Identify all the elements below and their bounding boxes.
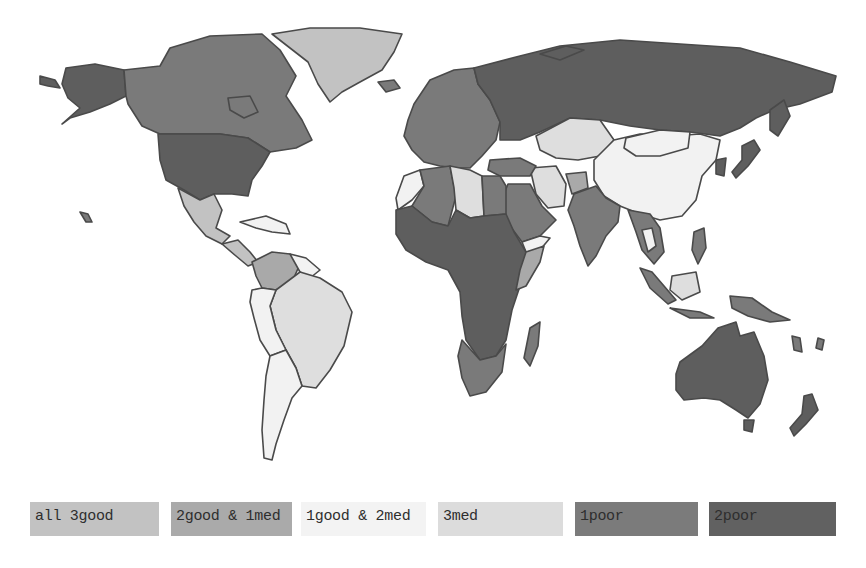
legend-label: 2good & 1med [176,508,280,525]
region-philippines [692,228,706,264]
region-greenland [272,28,402,102]
legend-label: 3med [443,508,478,525]
legend-item-1good-2med: 1good & 2med [301,502,426,536]
legend: all 3good 2good & 1med 1good & 2med 3med… [0,502,866,542]
region-australia [676,322,768,418]
region-alaska [62,64,126,124]
legend-item-2poor: 2poor [709,502,836,536]
region-new-guinea [730,296,790,322]
legend-item-2good-1med: 2good & 1med [171,502,292,536]
world-choropleth-map [0,0,866,480]
region-madagascar [524,322,540,366]
legend-label: 1good & 2med [306,508,410,525]
region-java [670,308,714,318]
legend-label: all 3good [35,508,113,525]
region-egypt [482,176,506,216]
legend-label: 2poor [714,508,758,525]
region-united-states [158,134,270,200]
region-new-zealand [790,394,818,436]
region-iceland [378,80,400,92]
region-turkey-caucasus [488,158,536,176]
region-tasmania [744,420,754,432]
region-hawaii [80,212,92,222]
region-borneo [670,272,700,300]
region-argentina-chile [262,350,302,460]
legend-item-all-3-good: all 3good [30,502,159,536]
legend-item-3med: 3med [438,502,563,536]
region-korea-japan [716,140,760,178]
region-caribbean [240,216,290,234]
legend-label: 1poor [580,508,624,525]
region-aleutian-islands [40,76,60,88]
legend-item-1poor: 1poor [575,502,698,536]
region-pacific-islands [792,336,824,352]
